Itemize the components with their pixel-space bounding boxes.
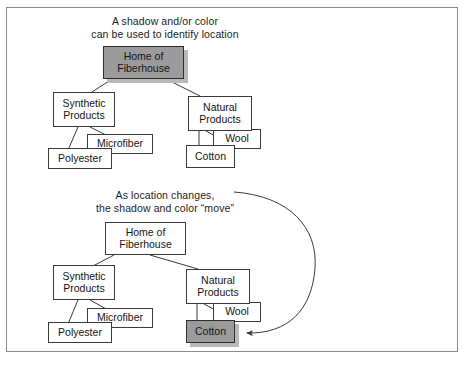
top-panel-caption: A shadow and/or color can be used to ide… [30,15,300,40]
diagram-figure: A shadow and/or color can be used to ide… [0,0,469,366]
node-natural-products[interactable]: Natural Products [188,96,252,131]
node-cotton-2[interactable]: Cotton [186,320,235,343]
node-home-of-fiberhouse[interactable]: Home of Fiberhouse [103,46,184,79]
node-synthetic-products[interactable]: Synthetic Products [53,92,115,127]
node-wool-2[interactable]: Wool [213,302,261,322]
bottom-panel-caption: As location changes, the shadow and colo… [30,189,300,214]
node-synthetic-products-2[interactable]: Synthetic Products [53,265,115,300]
node-polyester-2[interactable]: Polyester [48,322,112,343]
node-home-of-fiberhouse-2[interactable]: Home of Fiberhouse [105,222,186,255]
node-polyester[interactable]: Polyester [48,148,112,169]
node-natural-products-2[interactable]: Natural Products [186,269,250,304]
node-cotton[interactable]: Cotton [186,145,235,168]
